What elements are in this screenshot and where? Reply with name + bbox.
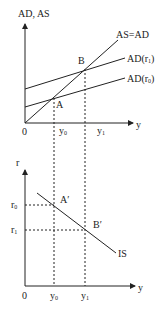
top-y-axis-label: AD, AS [18,8,50,19]
top-y1-tick: y1 [97,125,105,136]
r0-tick: r0 [11,199,17,210]
bottom-origin-label: 0 [22,290,27,301]
bottom-y-axis-label: r [16,157,20,168]
point-a-prime-label: A′ [60,194,69,205]
bottom-chart: r y 0 IS A′ B′ r0 r1 y0 y1 [11,157,143,301]
bottom-x-axis-label: y [138,282,143,293]
ad-r1-line [25,58,125,89]
ad-r0-label: AD(r0) [127,73,154,85]
as-ad-label: AS=AD [116,29,149,40]
ad-r0-line [25,78,125,107]
top-x-axis-label: y [136,119,141,130]
is-curve [37,193,116,253]
point-a-label: A [56,99,64,110]
bottom-y1-tick: y1 [81,290,89,301]
point-b-prime-label: B′ [93,219,102,230]
top-y0-tick: y0 [59,125,67,136]
r1-tick: r1 [11,224,17,235]
is-curve-derivation-diagram: AD, AS y 0 AS=AD AD(r1) AD(r0) A B y0 y1… [0,0,159,317]
top-chart: AD, AS y 0 AS=AD AD(r1) AD(r0) A B y0 y1 [18,8,154,137]
point-b-label: B [78,55,85,66]
as-ad-line [25,40,118,123]
top-origin-label: 0 [22,126,27,137]
bottom-y0-tick: y0 [50,290,58,301]
is-curve-label: IS [118,248,127,259]
ad-r1-label: AD(r1) [127,53,154,65]
